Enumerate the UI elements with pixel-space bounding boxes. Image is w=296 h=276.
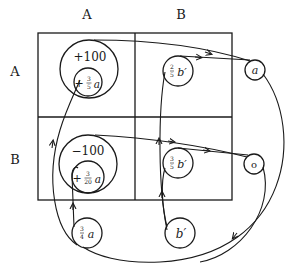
svg-text:2: 2 [170,63,174,70]
arrow-b-prime-to-bb [162,168,167,230]
node-b-prime: b′ [165,218,195,248]
svg-text:o: o [251,159,257,170]
svg-text:4: 4 [80,233,84,240]
cell-bb: 3 5 b′ [163,148,193,178]
svg-text:3: 3 [86,170,90,177]
arrow-ba-to-o [95,135,247,157]
svg-text:3: 3 [170,155,174,162]
svg-text:a: a [95,173,101,185]
svg-text:3: 3 [80,225,84,232]
arrow-three-quarter-a-to-aa [53,80,80,245]
node-three-quarter-a: 3 4 a [72,218,102,248]
flow-diagram: A B A B +100 + 3 5 a −100 + 3 20 a 2 5 b… [0,0,296,276]
outer-value: +100 [74,50,107,64]
svg-text:3: 3 [87,75,91,82]
row-header-b: B [10,152,20,167]
svg-text:a: a [252,64,259,77]
svg-text:b′: b′ [176,227,187,241]
cell-ba: −100 + 3 20 a [59,135,117,193]
svg-text:+: + [72,172,81,185]
svg-text:b′: b′ [177,66,187,79]
svg-text:5: 5 [87,83,91,90]
column-header-b: B [176,7,186,22]
svg-text:5: 5 [170,163,174,170]
outer-value: −100 [72,144,105,158]
column-header-a: A [81,7,92,22]
cell-aa: +100 + 3 5 a [60,40,118,98]
svg-text:5: 5 [170,71,174,78]
svg-text:a: a [88,228,95,241]
cell-ab: 2 5 b′ [163,56,193,86]
payoff-grid [38,33,232,200]
svg-text:b′: b′ [177,158,187,171]
svg-text:20: 20 [84,178,92,185]
row-header-a: A [9,64,20,79]
node-a: a [245,60,265,80]
svg-text:a: a [94,78,100,90]
